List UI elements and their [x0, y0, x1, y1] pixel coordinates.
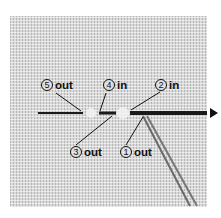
- circled-number: 3: [70, 146, 82, 158]
- thread-tail: [143, 116, 197, 206]
- label-5-out: 5 out: [41, 78, 73, 92]
- label-4-in: 4 in: [103, 78, 127, 92]
- circled-number: 1: [120, 146, 132, 158]
- circled-number: 4: [103, 79, 115, 91]
- circled-number: 2: [155, 79, 167, 91]
- label-word: out: [84, 145, 102, 159]
- label-word: out: [134, 145, 152, 159]
- label-word: in: [169, 78, 179, 92]
- label-3-out: 3 out: [70, 145, 102, 159]
- stitch-diagram: [0, 0, 221, 218]
- stitch-line: [38, 107, 207, 119]
- label-1-out: 1 out: [120, 145, 152, 159]
- triangle-right-icon: [210, 108, 218, 118]
- label-word: out: [55, 78, 73, 92]
- label-word: in: [117, 78, 127, 92]
- label-2-in: 2 in: [155, 78, 179, 92]
- circled-number: 5: [41, 79, 53, 91]
